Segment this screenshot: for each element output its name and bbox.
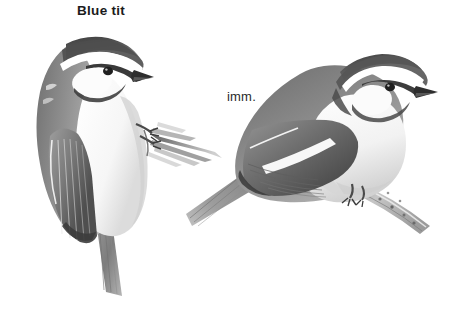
- bird-illustration-canvas: [0, 0, 459, 314]
- immature-eye: [385, 83, 395, 92]
- adult-eye: [103, 67, 113, 76]
- illustration-plate: Blue tit imm.: [0, 0, 459, 314]
- species-title: Blue tit: [77, 3, 125, 18]
- immature-age-label: imm.: [227, 89, 256, 104]
